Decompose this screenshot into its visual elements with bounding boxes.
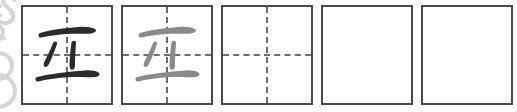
- vertical-guide-line: [266, 7, 268, 103]
- handwriting-practice-worksheet: [0, 0, 517, 112]
- empty-guided-cell[interactable]: [221, 5, 313, 105]
- empty-plain-cell[interactable]: [421, 5, 513, 105]
- trace-character-cell[interactable]: [121, 5, 213, 105]
- horizontal-guide-line: [123, 54, 211, 56]
- horizontal-guide-line: [223, 54, 311, 56]
- practice-cell-row: [21, 5, 513, 105]
- vertical-guide-line: [66, 7, 68, 103]
- empty-plain-cell[interactable]: [321, 5, 413, 105]
- model-character-cell[interactable]: [21, 5, 113, 105]
- vertical-guide-line: [166, 7, 168, 103]
- horizontal-guide-line: [23, 54, 111, 56]
- character-glyph-li-light: [123, 7, 211, 103]
- character-glyph-li-dark: [23, 7, 111, 103]
